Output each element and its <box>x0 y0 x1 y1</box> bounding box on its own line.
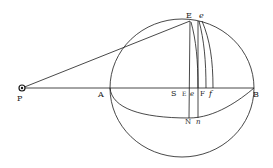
label-e-small: e <box>190 90 194 98</box>
label-A: A <box>97 90 104 99</box>
label-B: B <box>253 90 259 99</box>
label-E: E <box>186 11 192 20</box>
label-N: N <box>185 118 191 126</box>
label-f: f <box>208 89 214 98</box>
label-e: e <box>199 11 204 20</box>
label-P: P <box>17 94 23 103</box>
line-PE <box>22 21 190 88</box>
label-S: S <box>171 89 176 98</box>
label-E-small: E <box>182 90 186 97</box>
label-n: n <box>196 118 201 126</box>
line-EN <box>189 21 190 118</box>
arc-e-f <box>202 21 213 88</box>
arc-E-e <box>191 22 198 88</box>
label-F: F <box>200 90 205 98</box>
arc-e-F <box>199 21 206 88</box>
diagram-canvas: P A B E e S E e F f N n <box>0 0 273 168</box>
body-P-center-icon <box>21 87 23 89</box>
